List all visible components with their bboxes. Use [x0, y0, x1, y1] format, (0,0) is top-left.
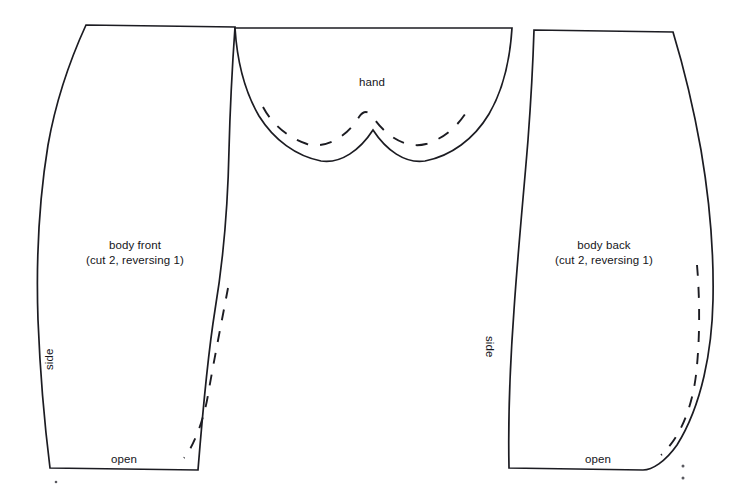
body-back-name-text: body back — [555, 238, 653, 253]
hand-label: hand — [359, 75, 385, 90]
body-front-open-label: open — [111, 452, 137, 467]
body-back-side-label: side — [482, 336, 497, 358]
scan-speck — [682, 465, 685, 468]
body-front-side-label: side — [42, 349, 57, 371]
scan-speck — [55, 481, 58, 484]
hand-name-text: hand — [359, 75, 385, 90]
side-left-text: side — [42, 349, 57, 371]
body-front-label: body front (cut 2, reversing 1) — [86, 238, 184, 268]
pattern-sheet: body front (cut 2, reversing 1) body bac… — [0, 0, 741, 486]
body-front-cut-text: (cut 2, reversing 1) — [86, 253, 184, 268]
scan-speck — [682, 477, 685, 480]
open-left-text: open — [111, 452, 137, 467]
body-front-name-text: body front — [86, 238, 184, 253]
body-back-open-label: open — [585, 452, 611, 467]
side-right-text: side — [482, 336, 497, 358]
open-right-text: open — [585, 452, 611, 467]
hand-outline — [235, 28, 512, 161]
body-back-label: body back (cut 2, reversing 1) — [555, 238, 653, 268]
body-back-cut-text: (cut 2, reversing 1) — [555, 253, 653, 268]
